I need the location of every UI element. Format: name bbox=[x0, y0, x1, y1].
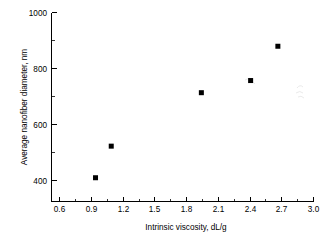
x-tick-label: 0.9 bbox=[86, 205, 98, 214]
y-tick-label: 600 bbox=[33, 121, 47, 130]
chart-canvas: 1000 800 600 400 bbox=[0, 0, 334, 244]
x-tick-label: 2.4 bbox=[245, 205, 257, 214]
data-point bbox=[199, 90, 204, 95]
x-tick-label: 2.7 bbox=[276, 205, 288, 214]
data-point bbox=[93, 175, 98, 180]
scatter-chart-figure: 1000 800 600 400 bbox=[0, 0, 334, 244]
x-tick-label: 2.1 bbox=[213, 205, 225, 214]
x-tick-label: 3.0 bbox=[308, 205, 320, 214]
data-point bbox=[248, 78, 253, 83]
y-axis-title: Average nanofiber diameter, nm bbox=[20, 49, 29, 166]
x-axis-tick-labels: 0.6 0.9 1.2 1.5 1.8 2.1 2.4 2.7 3.0 bbox=[54, 205, 320, 214]
y-tick-label: 800 bbox=[33, 65, 47, 74]
x-axis-title: Intrinsic viscosity, dL/g bbox=[145, 223, 227, 232]
y-tick-label: 1000 bbox=[29, 9, 48, 18]
x-tick-label: 1.2 bbox=[118, 205, 130, 214]
x-tick-label: 1.5 bbox=[149, 205, 161, 214]
x-tick-label: 0.6 bbox=[54, 205, 66, 214]
y-tick-label: 400 bbox=[33, 177, 47, 186]
data-point bbox=[109, 144, 114, 149]
data-point bbox=[275, 44, 280, 49]
x-tick-label: 1.8 bbox=[181, 205, 193, 214]
